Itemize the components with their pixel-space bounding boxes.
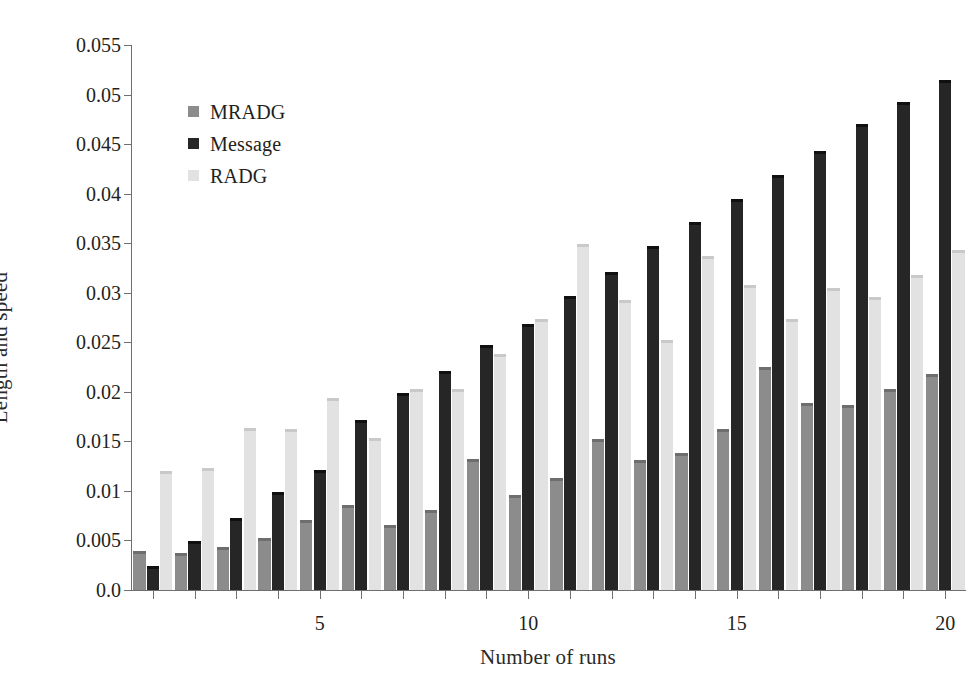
y-tick-mark [124, 590, 132, 591]
bar-radg-10 [535, 319, 547, 590]
bar-cap [689, 222, 701, 225]
bar-mradg-11 [550, 478, 562, 590]
bar-message-11 [564, 296, 576, 590]
bar-cap [452, 389, 464, 392]
x-tick-mark [361, 590, 362, 599]
bar-cap [577, 244, 589, 247]
bar-radg-14 [702, 256, 714, 590]
bar-cap [327, 398, 339, 401]
bar-cap [188, 541, 200, 544]
bar-cap [842, 405, 854, 408]
legend-item-message: Message [188, 133, 285, 154]
x-tick-mark [486, 590, 487, 599]
bar-radg-3 [244, 428, 256, 590]
bar-cap [869, 297, 881, 300]
bar-radg-1 [160, 471, 172, 590]
bar-cap [425, 510, 437, 513]
bar-cap [342, 505, 354, 508]
bar-cap [244, 428, 256, 431]
bar-radg-13 [661, 340, 673, 590]
x-tick-label: 20 [935, 612, 955, 635]
bar-cap [801, 403, 813, 406]
bar-mradg-18 [842, 405, 854, 590]
y-tick-mark [124, 293, 132, 294]
legend-item-mradg: MRADG [188, 101, 285, 122]
bar-mradg-7 [384, 525, 396, 590]
bar-message-3 [230, 518, 242, 590]
bar-group [801, 45, 840, 590]
y-tick-mark [124, 194, 132, 195]
bar-cap [480, 345, 492, 348]
x-tick-mark [820, 590, 821, 599]
bar-message-19 [897, 102, 909, 590]
bar-group [926, 45, 965, 590]
x-axis-title-text: Number of runs [480, 645, 616, 669]
bar-cap [535, 319, 547, 322]
bar-cap [160, 471, 172, 474]
bar-cap [605, 272, 617, 275]
bar-message-4 [272, 492, 284, 590]
bar-cap [133, 551, 145, 554]
bar-message-10 [522, 324, 534, 590]
bar-mradg-15 [717, 429, 729, 590]
bar-radg-5 [327, 398, 339, 590]
bar-mradg-17 [801, 403, 813, 590]
x-tick-mark [528, 590, 529, 599]
bar-cap [202, 468, 214, 471]
bar-cap [939, 80, 951, 83]
bar-mradg-5 [300, 520, 312, 590]
bar-message-2 [188, 541, 200, 590]
bar-group [592, 45, 631, 590]
bar-mradg-2 [175, 553, 187, 590]
x-tick-mark [320, 590, 321, 599]
bar-group [717, 45, 756, 590]
x-tick-label: 15 [727, 612, 747, 635]
x-tick-mark [862, 590, 863, 599]
bar-cap [369, 438, 381, 441]
bar-cap [897, 102, 909, 105]
bar-group [467, 45, 506, 590]
bar-cap [661, 340, 673, 343]
y-tick-mark [124, 392, 132, 393]
x-tick-mark [945, 590, 946, 599]
y-tick-mark [124, 491, 132, 492]
bar-cap [397, 393, 409, 396]
bar-cap [744, 285, 756, 288]
bar-cap [702, 256, 714, 259]
bar-cap [217, 547, 229, 550]
bar-cap [786, 319, 798, 322]
bar-radg-20 [952, 250, 964, 590]
bar-message-6 [355, 420, 367, 590]
bar-radg-17 [827, 288, 839, 590]
bar-cap [619, 300, 631, 303]
bar-message-8 [439, 371, 451, 590]
bar-message-12 [605, 272, 617, 590]
bar-cap [911, 275, 923, 278]
bar-mradg-12 [592, 439, 604, 590]
legend-label-message: Message [210, 134, 281, 154]
bar-mradg-3 [217, 547, 229, 590]
bar-group [133, 45, 172, 590]
bar-mradg-9 [467, 459, 479, 590]
x-tick-mark [903, 590, 904, 599]
bar-cap [230, 518, 242, 521]
bar-cap [884, 389, 896, 392]
bar-radg-11 [577, 244, 589, 590]
legend-label-radg: RADG [210, 166, 267, 186]
chart-legend: MRADG Message RADG [188, 101, 285, 186]
bar-cap [509, 495, 521, 498]
bar-cap [272, 492, 284, 495]
bar-mradg-16 [759, 367, 771, 590]
bar-mradg-6 [342, 505, 354, 590]
x-tick-mark [737, 590, 738, 599]
legend-label-mradg: MRADG [210, 102, 285, 122]
x-tick-mark [403, 590, 404, 599]
bar-group [675, 45, 714, 590]
bar-mradg-13 [634, 460, 646, 590]
bar-message-17 [814, 151, 826, 590]
y-tick-mark [124, 95, 132, 96]
bar-cap [258, 538, 270, 541]
bar-cap [675, 453, 687, 456]
y-tick-mark [124, 45, 132, 46]
legend-swatch-mradg [188, 106, 199, 117]
